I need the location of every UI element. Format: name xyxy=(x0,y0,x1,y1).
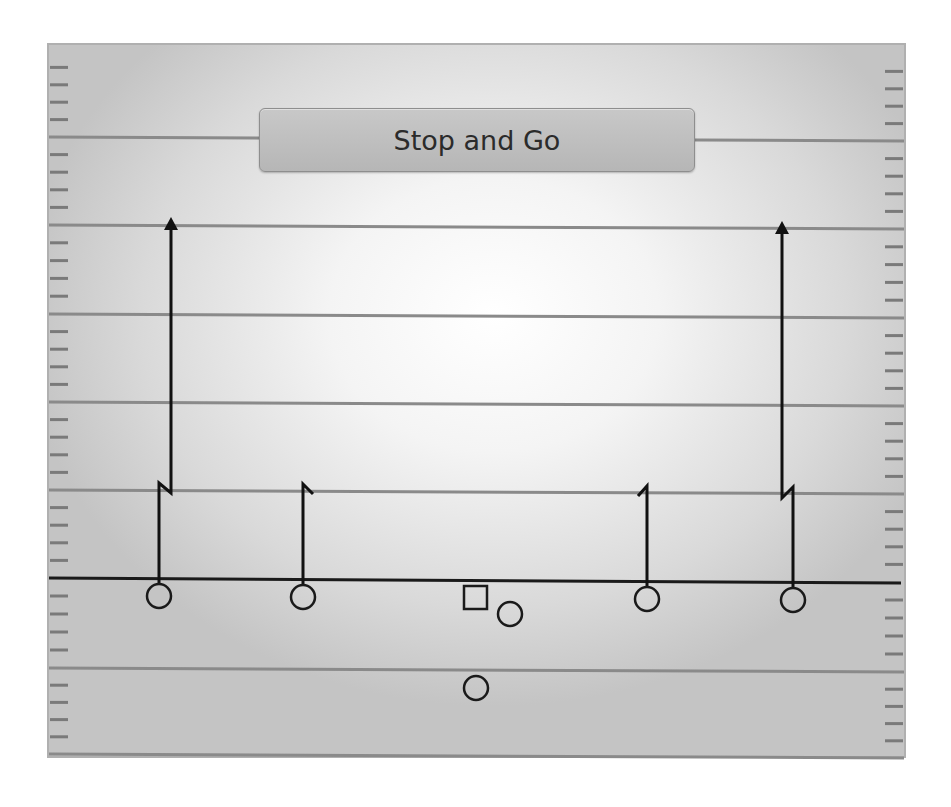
wr-right-outside-circle xyxy=(781,588,805,612)
wr-right-slot-circle xyxy=(635,587,659,611)
route-left-outside xyxy=(159,230,171,584)
yard-line xyxy=(49,402,904,406)
yard-line xyxy=(49,314,904,318)
play-title-banner: Stop and Go xyxy=(259,108,695,172)
arrow-head-icon xyxy=(164,217,178,230)
quarterback-circle xyxy=(498,602,522,626)
center-square xyxy=(464,586,487,609)
wr-left-slot-circle xyxy=(291,585,315,609)
players xyxy=(147,584,805,700)
route-right-outside xyxy=(782,234,793,588)
yard-line xyxy=(49,668,904,672)
route-right-slot xyxy=(638,486,647,587)
route-left-slot xyxy=(303,484,313,585)
running-back-circle xyxy=(464,676,488,700)
yard-line xyxy=(49,490,904,494)
yard-lines xyxy=(49,137,904,758)
play-title: Stop and Go xyxy=(394,125,561,156)
wr-left-outside-circle xyxy=(147,584,171,608)
line-of-scrimmage xyxy=(49,578,901,583)
yard-line xyxy=(49,754,904,758)
yard-line xyxy=(49,225,904,229)
